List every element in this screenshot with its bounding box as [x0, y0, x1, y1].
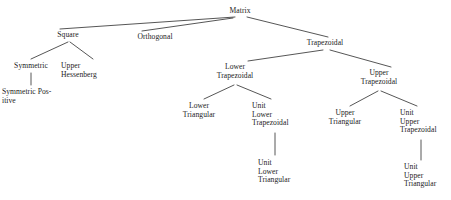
tree-node-label: Trapezoidal: [361, 78, 398, 87]
tree-node-unit-upper-triangular: UnitUpperTriangular: [404, 163, 436, 189]
tree-node-lower-triangular: LowerTriangular: [183, 102, 215, 119]
tree-node-square: Square: [57, 31, 78, 40]
tree-node-upper-triangular: UpperTriangular: [329, 109, 361, 126]
tree-node-label: Matrix: [230, 7, 251, 16]
tree-node-label: Triangular: [404, 180, 436, 189]
tree-node-unit-upper-trapezoidal: UnitUpperTrapezoidal: [400, 109, 437, 135]
matrix-taxonomy-diagram: MatrixSquareOrthogonalTrapezoidalSymmetr…: [0, 0, 451, 200]
tree-node-matrix: Matrix: [230, 7, 251, 16]
tree-edge-matrix-to-square: [60, 17, 235, 29]
tree-node-label: Trapezoidal: [307, 39, 344, 48]
tree-node-upper-trapezoidal: UpperTrapezoidal: [361, 69, 398, 86]
tree-node-orthogonal: Orthogonal: [137, 33, 172, 42]
tree-node-lower-trapezoidal: LowerTrapezoidal: [217, 63, 254, 80]
tree-edge-square-to-symmetric: [31, 42, 68, 59]
tree-edge-lower-trapezoidal-to-unit-lower-trapezoidal: [237, 85, 271, 99]
tree-edge-square-to-upper-hessenberg: [70, 42, 93, 59]
tree-node-trapezoidal: Trapezoidal: [307, 39, 344, 48]
tree-node-label: Trapezoidal: [400, 126, 437, 135]
tree-node-symmetric: Symmetric: [14, 62, 48, 71]
tree-node-upper-hessenberg: UpperHessenberg: [61, 62, 97, 79]
tree-edge-lower-trapezoidal-to-lower-triangular: [204, 85, 234, 99]
tree-node-label: Triangular: [329, 118, 361, 127]
tree-node-label: Triangular: [258, 176, 290, 185]
tree-node-unit-lower-triangular: UnitLowerTriangular: [258, 159, 290, 185]
tree-edge-upper-trapezoidal-to-upper-triangular: [350, 91, 378, 106]
tree-node-label: Trapezoidal: [252, 119, 289, 128]
tree-edge-upper-trapezoidal-to-unit-upper-trapezoidal: [381, 91, 417, 106]
tree-node-label: Orthogonal: [137, 33, 172, 42]
tree-node-unit-lower-trapezoidal: UnitLowerTrapezoidal: [252, 102, 289, 128]
tree-node-label: Square: [57, 31, 78, 40]
tree-node-label: itive: [2, 97, 51, 106]
tree-edge-trapezoidal-to-lower-trapezoidal: [248, 50, 323, 61]
tree-edge-trapezoidal-to-upper-trapezoidal: [330, 50, 391, 67]
tree-node-label: Hessenberg: [61, 71, 97, 80]
tree-node-label: Symmetric: [14, 62, 48, 71]
tree-node-label: Trapezoidal: [217, 72, 254, 81]
tree-node-symmetric-positive: Symmetric Pos-itive: [2, 88, 51, 105]
tree-edge-matrix-to-trapezoidal: [247, 17, 328, 37]
tree-node-label: Triangular: [183, 111, 215, 120]
